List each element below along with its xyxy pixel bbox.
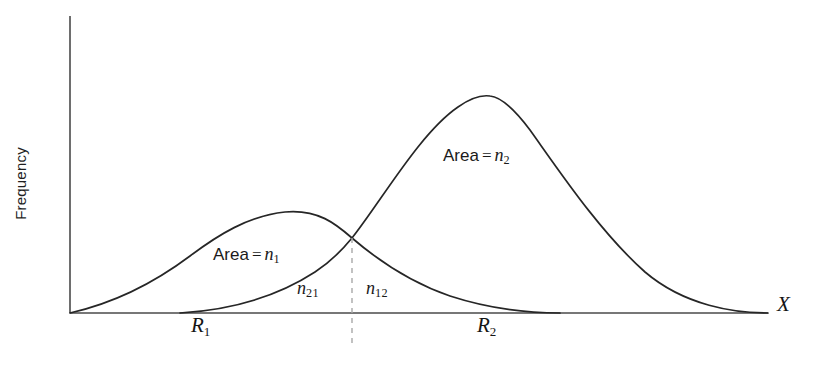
group-label-r1: R1	[191, 315, 210, 336]
y-axis-title: Frequency	[0, 0, 40, 366]
x-axis-title: X	[777, 294, 790, 315]
y-axis-title-text: Frequency	[13, 147, 28, 220]
group-label-r1-sub: 1	[204, 324, 211, 339]
overlap-label-n12: n12	[366, 279, 388, 297]
area-label-n2-symbol-sub: 2	[504, 153, 510, 167]
overlap-label-n12-base: n	[366, 278, 375, 298]
group-label-r1-base: R	[191, 313, 204, 337]
area-label-n1-symbol-sub: 1	[274, 252, 280, 266]
group-label-r2-base: R	[477, 313, 490, 337]
area-label-n1-equals: =	[249, 245, 265, 264]
area-label-n2-symbol-base: n	[495, 145, 504, 165]
overlap-label-n21-sub: 21	[306, 286, 319, 300]
area-label-n1-symbol-base: n	[265, 244, 274, 264]
area-label-n2-symbol: n2	[495, 145, 510, 165]
area-label-n2-equals: =	[479, 146, 495, 165]
area-label-n1-word: Area	[213, 245, 249, 264]
chart-plot-area	[0, 0, 828, 366]
area-label-n1-symbol: n1	[265, 244, 280, 264]
area-label-n2-word: Area	[443, 146, 479, 165]
group-label-r2-sub: 2	[490, 324, 497, 339]
area-label-n1: Area=n1	[213, 245, 280, 263]
frequency-overlap-chart: Frequency Area=n1 Area=n2 n21 n12 R1 R2 …	[0, 0, 828, 366]
overlap-label-n21: n21	[297, 279, 319, 297]
overlap-label-n21-base: n	[297, 278, 306, 298]
distribution-curve-2	[180, 96, 768, 313]
group-label-r2: R2	[477, 315, 496, 336]
area-label-n2: Area=n2	[443, 146, 510, 164]
overlap-label-n12-sub: 12	[375, 286, 388, 300]
